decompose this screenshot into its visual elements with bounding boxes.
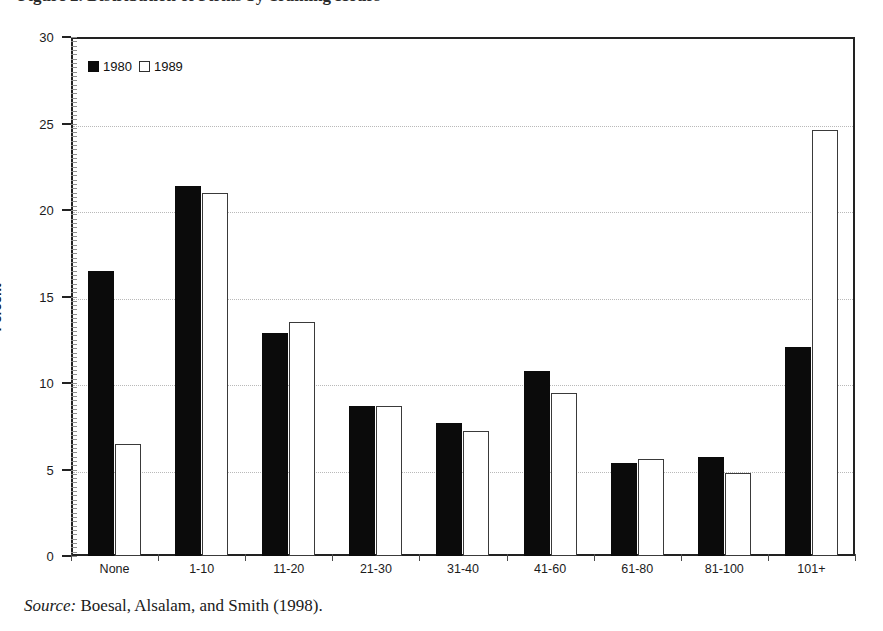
bar-1980-81-100 <box>698 457 724 556</box>
bar-1980-11-20 <box>262 333 288 556</box>
x-tick-mark <box>419 554 420 561</box>
legend-label: 1980 <box>103 60 132 73</box>
x-tick-mark <box>158 554 159 561</box>
x-tick-label: 11-20 <box>273 562 304 576</box>
legend-swatch-icon <box>88 61 99 72</box>
x-tick-mark <box>768 554 769 561</box>
chart-legend: 19801989 <box>88 60 183 73</box>
legend-item-1980[interactable]: 1980 <box>88 60 132 73</box>
x-axis: None1-1011-2021-3031-4041-6061-8081-1001… <box>71 562 855 588</box>
bar-1989-31-40 <box>463 431 489 556</box>
y-axis: Percent 051015202530 <box>0 0 71 600</box>
x-tick-mark <box>71 554 72 561</box>
bar-1980-101+ <box>785 347 811 556</box>
x-tick-mark <box>245 554 246 561</box>
y-tick-label: 15 <box>39 289 54 304</box>
bar-1980-1-10 <box>175 186 201 556</box>
bar-1989-81-100 <box>725 473 751 556</box>
y-axis-title: Percent <box>0 284 4 332</box>
bar-group <box>332 37 419 556</box>
y-tick-mark <box>62 555 71 557</box>
x-tick-mark <box>855 554 856 561</box>
x-tick-label: 31-40 <box>447 562 479 576</box>
bar-1989-1-10 <box>202 193 228 556</box>
x-tick-label: 1-10 <box>189 562 214 576</box>
y-tick-label: 5 <box>47 462 54 477</box>
figure-caption-text: Figure 2. Distribution of Firms by Train… <box>18 0 381 6</box>
x-tick-mark <box>332 554 333 561</box>
bar-group <box>71 37 158 556</box>
figure-container: Figure 2. Distribution of Firms by Train… <box>0 0 883 631</box>
x-tick-label: 41-60 <box>534 562 566 576</box>
bars-layer <box>71 37 855 556</box>
y-tick-mark <box>62 296 71 298</box>
bar-1980-21-30 <box>349 406 375 557</box>
y-tick-mark <box>62 123 71 125</box>
bar-group <box>768 37 855 556</box>
y-tick-label: 30 <box>39 30 54 45</box>
y-tick-label: 25 <box>39 116 54 131</box>
bar-1989-61-80 <box>638 459 664 556</box>
x-tick-mark <box>681 554 682 561</box>
x-tick-label: 61-80 <box>621 562 653 576</box>
x-tick-label: 101+ <box>797 562 825 576</box>
bar-group <box>158 37 245 556</box>
source-citation: Boesal, Alsalam, and Smith (1998). <box>81 596 323 615</box>
bar-group <box>245 37 332 556</box>
bar-1989-11-20 <box>289 322 315 556</box>
bar-1989-None <box>115 444 141 556</box>
x-tick-label: 81-100 <box>705 562 744 576</box>
y-tick-mark <box>62 36 71 38</box>
y-tick-label: 10 <box>39 376 54 391</box>
bar-1980-41-60 <box>524 371 550 556</box>
bar-1989-41-60 <box>551 393 577 556</box>
legend-item-1989[interactable]: 1989 <box>139 60 183 73</box>
bar-group <box>594 37 681 556</box>
y-tick-mark <box>62 382 71 384</box>
bar-group <box>507 37 594 556</box>
bar-group <box>681 37 768 556</box>
x-tick-mark <box>594 554 595 561</box>
x-tick-label: None <box>100 562 130 576</box>
bar-1989-21-30 <box>376 406 402 557</box>
bar-1980-31-40 <box>436 423 462 556</box>
bar-group <box>419 37 506 556</box>
bar-1989-101+ <box>812 130 838 556</box>
y-tick-mark <box>62 209 71 211</box>
bar-1980-61-80 <box>611 463 637 556</box>
legend-label: 1989 <box>154 60 183 73</box>
x-tick-label: 21-30 <box>360 562 392 576</box>
x-tick-mark <box>507 554 508 561</box>
y-tick-label: 20 <box>39 203 54 218</box>
figure-caption-cropped: Figure 2. Distribution of Firms by Train… <box>0 0 883 8</box>
source-label: Source: <box>24 596 76 615</box>
bar-1980-None <box>88 271 114 556</box>
y-tick-mark <box>62 469 71 471</box>
y-tick-label: 0 <box>47 549 54 564</box>
legend-swatch-icon <box>139 61 150 72</box>
source-note: Source: Boesal, Alsalam, and Smith (1998… <box>24 596 323 616</box>
